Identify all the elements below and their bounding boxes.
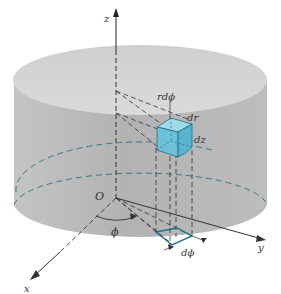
rdphi-label: rdϕ <box>157 91 175 102</box>
y-arrow-icon <box>256 235 266 242</box>
dr-label: dr <box>187 112 199 123</box>
z-axis-label: z <box>103 13 110 24</box>
origin-label: O <box>95 190 104 203</box>
cylinder <box>13 45 267 237</box>
z-arrow-icon <box>113 8 119 17</box>
x-axis-label: x <box>24 283 30 294</box>
y-axis-label: y <box>257 242 264 253</box>
dphi-label: dϕ <box>181 247 194 258</box>
dz-label: dz <box>194 134 206 145</box>
dr-tick-icon <box>201 238 207 243</box>
cylindrical-coordinates-diagram: z x y O ϕ rdϕ dr dz dϕ <box>0 0 281 294</box>
cylinder-top <box>13 45 267 115</box>
phi-label: ϕ <box>111 226 119 239</box>
